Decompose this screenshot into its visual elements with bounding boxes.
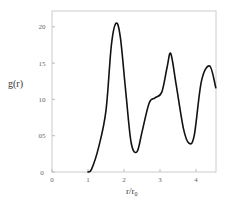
x-axis-label-main: r/r [126, 186, 135, 196]
plot-frame [52, 11, 216, 172]
x-axis-label: r/r0 [126, 186, 138, 197]
y-axis-label: g(r) [8, 78, 23, 90]
y-tick-label: 20 [39, 23, 47, 31]
gr-curve [88, 23, 216, 172]
x-tick-label: 3 [158, 176, 162, 184]
x-tick-label: 2 [122, 176, 126, 184]
chart: 201510050 01234 g(r) r/r0 [0, 0, 226, 207]
x-axis-ticks: 01234 [50, 169, 198, 184]
y-axis-ticks: 201510050 [39, 23, 56, 176]
x-axis-label-subscript: 0 [135, 191, 138, 197]
x-tick-label: 4 [194, 176, 198, 184]
x-tick-label: 0 [50, 176, 54, 184]
y-tick-label: 15 [39, 60, 47, 68]
x-tick-label: 1 [86, 176, 90, 184]
y-tick-label: 05 [39, 132, 47, 140]
y-tick-label: 10 [39, 96, 47, 104]
y-tick-label: 0 [40, 169, 44, 177]
